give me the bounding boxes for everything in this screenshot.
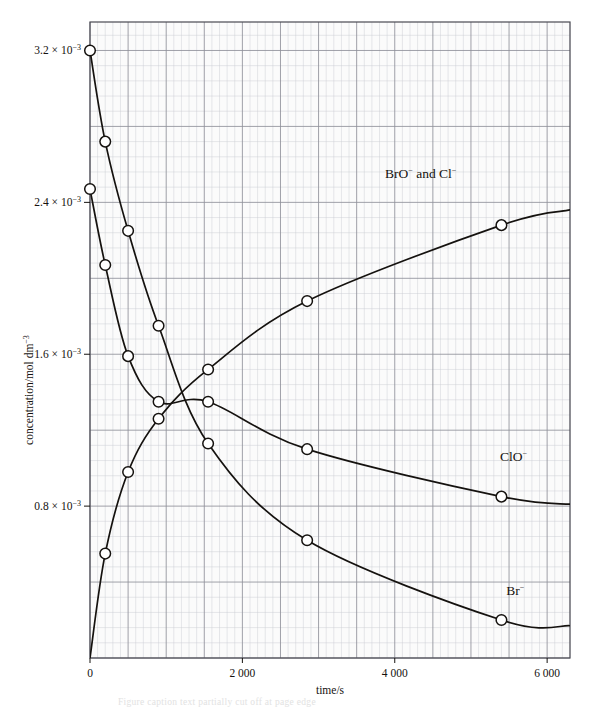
figure-container: 0.8 × 10−31.6 × 10−32.4 × 10−33.2 × 10−3… [0, 0, 589, 712]
data-point-marker [203, 364, 214, 375]
figure-caption-ghost: Figure caption text partially cut off at… [118, 697, 578, 707]
data-point-marker [85, 184, 96, 195]
data-point-marker [100, 260, 111, 271]
y-axis-title-group: concentration/mol dm−3 [22, 335, 35, 445]
data-point-marker [123, 467, 134, 478]
data-point-marker [153, 320, 164, 331]
data-point-marker [153, 413, 164, 424]
data-point-marker [100, 136, 111, 147]
data-point-marker [153, 396, 164, 407]
data-point-marker [203, 396, 214, 407]
data-point-marker [496, 220, 507, 231]
x-tick-label: 0 [87, 667, 93, 679]
plot-area-background [90, 22, 570, 658]
y-axis-title: concentration/mol dm−3 [22, 335, 35, 445]
data-point-marker [123, 351, 134, 362]
x-axis-title: time/s [316, 684, 345, 696]
data-point-marker [100, 548, 111, 559]
x-tick-label: 4 000 [382, 667, 408, 679]
data-point-marker [302, 535, 313, 546]
data-point-marker [496, 615, 507, 626]
x-axis-title-group: time/s [316, 684, 345, 696]
data-point-marker [203, 438, 214, 449]
concentration-vs-time-chart: 0.8 × 10−31.6 × 10−32.4 × 10−33.2 × 10−3… [0, 0, 589, 712]
x-tick-label: 2 000 [229, 667, 255, 679]
series-label-0: BrO− and Cl− [385, 166, 457, 181]
data-point-marker [496, 491, 507, 502]
data-point-marker [123, 226, 134, 237]
data-point-marker [302, 444, 313, 455]
data-point-marker [85, 45, 96, 56]
x-tick-label: 6 000 [534, 667, 560, 679]
data-point-marker [302, 296, 313, 307]
